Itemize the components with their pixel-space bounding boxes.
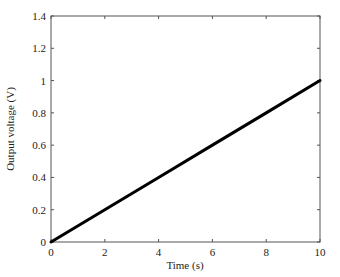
y-tick-label: 1 bbox=[41, 75, 47, 87]
x-tick-label: 2 bbox=[102, 246, 108, 258]
y-tick-label: 1.2 bbox=[32, 42, 46, 54]
series-line bbox=[51, 81, 320, 242]
y-tick-label: 1.4 bbox=[32, 10, 46, 22]
x-tick-label: 6 bbox=[210, 246, 216, 258]
x-tick-label: 4 bbox=[156, 246, 162, 258]
plot-border bbox=[51, 16, 320, 242]
x-axis-label: Time (s) bbox=[166, 259, 204, 272]
y-tick-label: 0.2 bbox=[32, 204, 46, 216]
x-axis-ticks: 0246810 bbox=[48, 16, 326, 258]
y-tick-label: 0.6 bbox=[32, 139, 46, 151]
plot-area-frame bbox=[51, 16, 320, 242]
y-axis-ticks: 00.20.40.60.811.21.4 bbox=[32, 10, 320, 248]
x-tick-label: 10 bbox=[315, 246, 327, 258]
y-tick-label: 0 bbox=[41, 236, 47, 248]
x-tick-label: 8 bbox=[263, 246, 269, 258]
y-tick-label: 0.4 bbox=[32, 171, 46, 183]
y-tick-label: 0.8 bbox=[32, 107, 46, 119]
y-axis-label: Output voltage (V) bbox=[4, 87, 17, 171]
x-tick-label: 0 bbox=[48, 246, 54, 258]
line-chart: 0246810 00.20.40.60.811.21.4 Time (s) Ou… bbox=[0, 0, 340, 277]
data-series bbox=[51, 81, 320, 242]
